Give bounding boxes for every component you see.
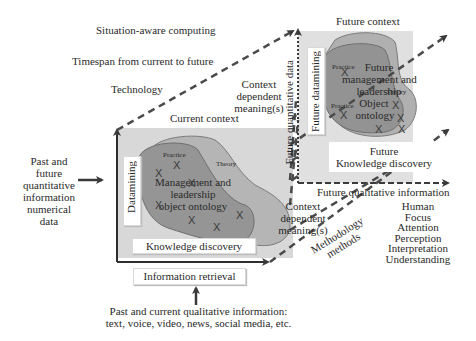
future-knowledge-line: Future [329,145,439,157]
x-mark: X [375,124,382,135]
bottom-input-line: Past and current qualitative information… [96,305,301,317]
x-mark: X [340,110,347,121]
future-ontology-line: Object [332,97,416,109]
human-factor-item: Attention [383,222,453,233]
x-mark: X [188,178,195,189]
left-input-text: Past and future quantitative information… [18,155,80,227]
left-input-line: numerical [18,203,80,215]
x-mark: X [155,200,162,211]
left-input-line: information [18,191,80,203]
context-meaning-line: Context [273,200,333,212]
current-context-title: Current context [170,112,239,124]
future-knowledge-line: Knowledge discovery [329,157,439,169]
context-meaning-bottom: Context dependent meaning(s) [273,200,333,236]
left-input-line: future [18,167,80,179]
timespan-label: Timespan from current to future [72,55,213,67]
left-input-line: quantitative [18,179,80,191]
future-ontology-label: Future management and leadership Object … [342,61,416,121]
situation-aware-label: Situation-aware computing [96,24,215,36]
x-mark: X [188,215,195,226]
context-meaning-line: meaning(s) [273,224,333,236]
future-quantitative-label: Future quantitative data [283,60,295,164]
x-mark: X [213,222,220,233]
technology-label: Technology [111,83,163,95]
context-meaning-line: dependent [273,212,333,224]
x-mark: X [392,100,399,111]
future-ontology-line: Future [342,61,416,73]
human-factor-item: Human [383,201,453,212]
future-datamining-label: Future datamining [309,51,321,132]
x-mark: X [173,160,180,171]
future-context-title: Future context [336,15,400,27]
human-factor-item: Interpretation [383,243,453,254]
knowledge-discovery-box: Knowledge discovery [132,238,256,254]
x-mark: X [236,210,243,221]
datamining-label: Datamining [125,161,137,213]
practice-label: Practice [163,151,186,159]
future-qualitative-label: Future qualitative information [317,186,450,198]
left-input-line: Past and [18,155,80,167]
information-retrieval-box: Information retrieval [133,268,246,285]
future-datamining-box: Future datamining [307,47,325,135]
datamining-box: Datamining [123,156,141,226]
x-mark: X [398,124,405,135]
future-ontology-line: leadership [342,85,416,97]
human-factor-item: Understanding [383,254,453,265]
bottom-input-line: text, voice, video, news, social media, … [96,317,301,329]
theory-label: Theory [216,160,236,168]
future-ontology-line: management and [342,73,416,85]
human-factors-list: Human Focus Attention Perception Interpr… [383,201,453,264]
x-mark: X [341,67,348,78]
future-knowledge-discovery-box: Future Knowledge discovery [329,142,439,172]
x-mark: X [155,168,162,179]
left-input-line: data [18,215,80,227]
bottom-input-text: Past and current qualitative information… [96,305,301,329]
